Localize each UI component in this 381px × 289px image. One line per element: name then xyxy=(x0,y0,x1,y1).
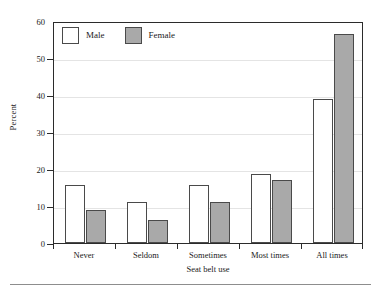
x-axis-tick xyxy=(301,244,302,249)
bar-female-all-times xyxy=(334,34,354,243)
bar-female-sometimes xyxy=(210,202,230,243)
bar-female-seldom xyxy=(148,220,168,243)
bar-female-most-times xyxy=(272,180,292,243)
legend-entry-male: Male xyxy=(62,27,125,44)
x-axis-title: Seat belt use xyxy=(53,264,363,274)
x-axis-tick-label: Seldom xyxy=(115,250,177,260)
legend-label-male: Male xyxy=(86,30,105,40)
x-axis-tick-label: Sometimes xyxy=(177,250,239,260)
x-axis-tick xyxy=(177,244,178,249)
x-axis-tick xyxy=(239,244,240,249)
y-axis-title: Percent xyxy=(8,82,18,152)
bar-male-most-times xyxy=(251,174,271,243)
bar-male-never xyxy=(65,185,85,243)
x-axis-tick-label: All times xyxy=(301,250,363,260)
x-axis-tick xyxy=(362,244,363,249)
legend-swatch-female xyxy=(125,27,142,44)
bar-male-seldom xyxy=(127,202,147,243)
x-axis-tick-label: Never xyxy=(53,250,115,260)
bar-female-never xyxy=(86,210,106,243)
bar-male-sometimes xyxy=(189,185,209,243)
x-axis-tick xyxy=(115,244,116,249)
y-axis-tick xyxy=(47,170,53,171)
legend-label-female: Female xyxy=(149,30,176,40)
y-axis-tick xyxy=(47,207,53,208)
y-axis-tick xyxy=(47,133,53,134)
y-axis-tick-label: 0 xyxy=(41,240,45,248)
y-axis-tick-label: 50 xyxy=(37,55,46,63)
legend-swatch-male xyxy=(62,27,79,44)
y-axis-tick-label: 60 xyxy=(37,18,46,26)
bar-chart-figure: Percent MaleFemale Seat belt use 0102030… xyxy=(0,0,381,289)
x-axis-tick-label: Most times xyxy=(239,250,301,260)
y-axis-tick-label: 40 xyxy=(37,92,46,100)
footer-divider xyxy=(10,284,371,285)
bar-male-all-times xyxy=(313,99,333,243)
y-axis-tick xyxy=(47,59,53,60)
plot-area xyxy=(53,22,363,244)
y-axis-tick-label: 30 xyxy=(37,129,46,137)
x-axis-tick xyxy=(53,244,54,249)
y-axis-tick-label: 10 xyxy=(37,203,46,211)
y-axis-tick xyxy=(47,96,53,97)
gridline xyxy=(54,60,362,61)
y-axis-tick-label: 20 xyxy=(37,166,46,174)
legend-entry-female: Female xyxy=(125,27,196,44)
chart-legend: MaleFemale xyxy=(62,24,195,46)
